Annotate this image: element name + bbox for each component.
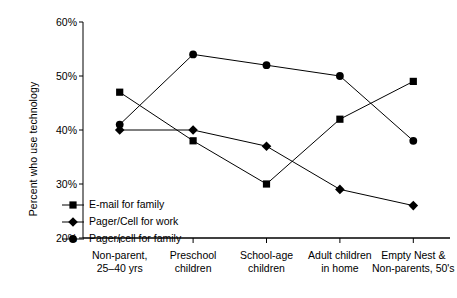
data-point-square [116, 89, 123, 96]
data-point-diamond [188, 125, 198, 135]
y-axis-tick-label: 50% [31, 71, 77, 81]
data-point-square [410, 78, 417, 85]
chart-container: Percent who use technology 20%30%40%50%6… [0, 0, 457, 298]
data-point-square [190, 137, 197, 144]
y-axis-tick-label: 30% [31, 179, 77, 189]
series-circle [116, 51, 417, 145]
series-square [116, 78, 417, 188]
y-axis-tick-label: 60% [31, 17, 77, 27]
legend-label: Pager/cell for family [89, 233, 181, 244]
legend-marker-diamond [68, 217, 78, 227]
data-point-square [263, 180, 270, 187]
data-point-square [336, 116, 343, 123]
data-point-circle [409, 137, 417, 145]
x-axis-tick-label-line: Empty Nest & [353, 249, 457, 262]
y-axis-tick-label: 20% [31, 233, 77, 243]
y-axis-tick-label: 40% [31, 125, 77, 135]
data-point-circle [116, 121, 124, 129]
data-point-circle [189, 51, 197, 59]
legend-label: E-mail for family [89, 199, 164, 210]
x-axis-tick-label: Empty Nest &Non-parents, 50's [353, 249, 457, 274]
data-series [115, 51, 418, 211]
legend-marker-square [69, 201, 76, 208]
data-point-diamond [262, 141, 272, 151]
data-point-diamond [409, 201, 419, 211]
data-point-circle [263, 61, 271, 69]
data-point-circle [336, 72, 344, 80]
data-point-diamond [335, 185, 345, 195]
legend-label: Pager/Cell for work [89, 216, 178, 227]
series-line [120, 81, 414, 184]
x-axis-tick-label-line: Non-parents, 50's [353, 262, 457, 275]
series-line [120, 130, 414, 206]
